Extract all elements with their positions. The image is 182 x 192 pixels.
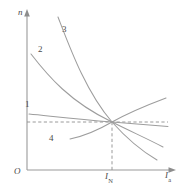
speed-current-characteristic-figure: n Ia IN O 1 2 3 4 [0,0,182,192]
x-axis-label: Ia [165,171,171,182]
chart-canvas [0,0,182,192]
y-axis [24,9,30,170]
x-axis [27,167,176,173]
curve-3-label: 3 [62,25,67,34]
curve-4-path [70,98,166,139]
rated-current-label: IN [105,172,113,183]
curve-2-label: 2 [38,45,43,54]
curve-1-path [29,114,168,127]
curve-4-label: 4 [49,134,54,143]
y-axis-label: n [18,8,23,17]
origin-label: O [14,167,21,176]
x-axis-label-subscript: a [168,176,171,183]
rated-current-label-subscript: N [108,177,113,184]
curve-1-label: 1 [25,100,30,109]
